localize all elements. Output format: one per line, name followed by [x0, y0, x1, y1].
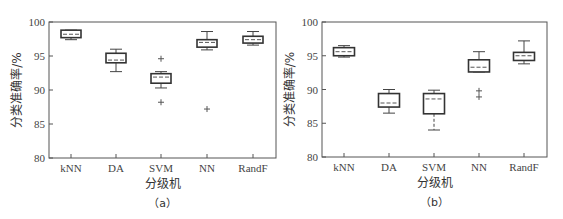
y-tick-label: 80	[34, 152, 46, 164]
y-tick-label: 85	[307, 117, 319, 129]
plot-frame	[49, 22, 276, 158]
x-axis-title: 分级机	[417, 176, 453, 190]
x-tick-label: RandF	[509, 161, 538, 173]
y-tick-label: 85	[34, 118, 46, 130]
panel-caption: （a）	[148, 197, 177, 210]
x-tick-label: RandF	[238, 162, 267, 174]
iqr-box	[514, 52, 535, 60]
y-tick-label: 95	[34, 50, 46, 62]
box-randf	[514, 41, 535, 64]
plot-frame	[322, 22, 547, 157]
iqr-box	[197, 40, 217, 47]
panel-caption: （b）	[420, 196, 449, 209]
y-tick-label: 90	[307, 84, 319, 96]
y-tick-label: 100	[29, 16, 46, 28]
y-tick-label: 100	[302, 16, 319, 28]
y-axis-title: 分类准确率/%	[9, 52, 24, 127]
x-tick-label: NN	[199, 162, 215, 174]
box-knn	[61, 30, 81, 40]
box-da	[379, 90, 400, 114]
box-da	[106, 49, 126, 71]
box-nn	[197, 32, 217, 113]
x-tick-label: kNN	[333, 161, 354, 173]
x-tick-label: kNN	[60, 162, 81, 174]
box-knn	[334, 46, 355, 57]
x-tick-label: DA	[108, 162, 124, 174]
box-randf	[243, 32, 263, 46]
x-tick-label: NN	[471, 161, 487, 173]
box-nn	[469, 52, 490, 100]
x-tick-label: SVM	[422, 161, 446, 173]
x-tick-label: DA	[381, 161, 397, 173]
iqr-box	[379, 94, 400, 108]
y-tick-label: 80	[307, 151, 319, 163]
boxplot-panel-a: 80859095100kNNDASVMNNRandF分类准确率/%分级机（a）	[9, 16, 276, 210]
boxplot-panel-b: 80859095100kNNDASVMNNRandF分类准确率/%分级机（b）	[282, 16, 547, 209]
y-axis-title: 分类准确率/%	[282, 52, 297, 127]
iqr-box	[469, 60, 490, 72]
iqr-box	[424, 94, 445, 114]
y-tick-label: 90	[34, 84, 46, 96]
box-svm	[424, 90, 445, 130]
x-axis-title: 分级机	[145, 177, 181, 191]
x-tick-label: SVM	[149, 162, 173, 174]
iqr-box	[106, 53, 126, 63]
figure: 80859095100kNNDASVMNNRandF分类准确率/%分级机（a） …	[0, 0, 563, 219]
y-tick-label: 95	[307, 50, 319, 62]
box-svm	[151, 56, 171, 106]
iqr-box	[151, 74, 171, 84]
